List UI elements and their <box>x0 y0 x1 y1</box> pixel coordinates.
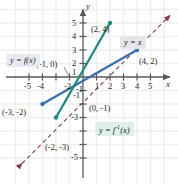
label-box-y-equals-f-inverse-x: y = f-1(x) <box>95 122 134 136</box>
y-tick-5: 5 <box>72 19 76 28</box>
point-marker-neg2-neg3 <box>54 115 58 119</box>
label-box-y-equals-x: y = x <box>120 36 146 49</box>
f-inverse-head: y = f <box>99 125 115 135</box>
y-tick-neg1: -1 <box>73 91 80 100</box>
y-tick-neg3: -3 <box>71 113 78 122</box>
x-tick-2: 2 <box>108 82 112 91</box>
point-label-neg3-neg2: (-3, -2) <box>2 108 26 117</box>
x-tick-neg4: -4 <box>37 82 44 91</box>
x-axis-label: x <box>166 80 170 89</box>
point-label-4-2: (4, 2) <box>139 57 157 66</box>
y-tick-4: 4 <box>72 32 76 41</box>
point-marker-neg3-neg2 <box>40 102 44 106</box>
point-label-0-neg1: (0, -1) <box>89 104 110 113</box>
graph-figure: x y -5 -4 -2 -1 1 2 3 4 5 5 4 3 2 1 -1 -… <box>0 0 178 184</box>
x-tick-4: 4 <box>135 82 139 91</box>
x-tick-3: 3 <box>121 82 125 91</box>
y-tick-3: 3 <box>72 46 76 55</box>
y-tick-1: 1 <box>72 68 76 77</box>
y-axis-label: y <box>86 2 90 11</box>
point-label-2-4: (2, 4) <box>91 25 109 34</box>
y-tick-neg5: -5 <box>71 153 78 162</box>
coordinate-plane <box>0 0 178 184</box>
leader-line-neg1-0 <box>64 67 70 77</box>
x-tick-1: 1 <box>95 82 99 91</box>
label-box-y-equals-fx: y = f(x) <box>6 54 40 67</box>
x-tick-5: 5 <box>148 82 152 91</box>
grid-lines <box>0 0 178 184</box>
x-tick-neg5: -5 <box>24 82 31 91</box>
x-tick-neg2: -2 <box>64 82 71 91</box>
f-inverse-tail: (x) <box>120 125 129 135</box>
point-label-neg2-neg3: (-2, -3) <box>45 143 69 152</box>
